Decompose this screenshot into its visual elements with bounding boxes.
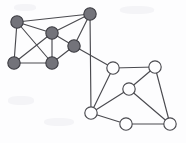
- graph-node-w2: [149, 61, 161, 73]
- graph-edge-w3-w6: [129, 89, 170, 124]
- graph-node-d5: [8, 57, 20, 69]
- graph-node-w5: [120, 118, 132, 130]
- graph-node-w4: [85, 107, 97, 119]
- graph-node-w3: [123, 83, 135, 95]
- graph-node-d6: [46, 57, 58, 69]
- graph-node-d3: [46, 27, 58, 39]
- node-layer: [8, 8, 176, 130]
- graph-node-w1: [107, 62, 119, 74]
- graph-edge-d3-d5: [14, 33, 52, 63]
- graph-edge-d2-w4: [90, 14, 91, 113]
- diagram-canvas: [0, 0, 186, 143]
- graph-node-d4: [68, 40, 80, 52]
- graph-node-w6: [164, 118, 176, 130]
- graph-node-d1: [11, 16, 23, 28]
- graph-figure: [0, 0, 186, 143]
- graph-node-d2: [84, 8, 96, 20]
- graph-edge-w2-w6: [155, 67, 170, 124]
- graph-edge-d1-d2: [17, 14, 90, 22]
